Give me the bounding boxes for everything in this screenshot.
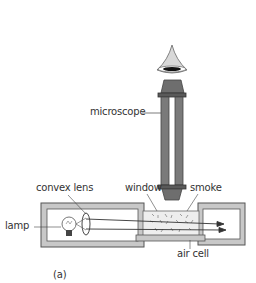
brownian-motion-apparatus-diagram bbox=[0, 0, 256, 283]
lamp-label: lamp bbox=[5, 221, 29, 231]
eye-icon bbox=[157, 45, 187, 73]
air-cell bbox=[136, 211, 205, 241]
window-leader-line bbox=[147, 194, 157, 211]
smoke-label: smoke bbox=[190, 183, 222, 193]
microscope-label: microscope bbox=[90, 107, 145, 117]
air-cell-label: air cell bbox=[177, 249, 209, 259]
smoke-leader-line bbox=[187, 194, 198, 211]
lamp-housing bbox=[41, 203, 144, 247]
figure-caption: (a) bbox=[53, 270, 66, 280]
window-label: window bbox=[125, 183, 162, 193]
convex-lens-label: convex lens bbox=[36, 183, 93, 193]
microscope-icon bbox=[158, 80, 186, 200]
